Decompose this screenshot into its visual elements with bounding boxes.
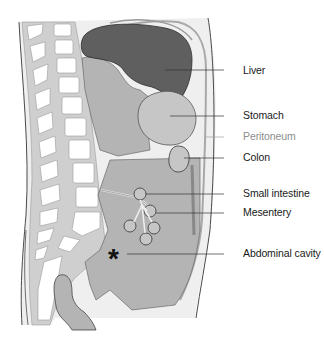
label-liver: Liver <box>243 64 265 76</box>
label-mesentery: Mesentery <box>243 206 291 218</box>
label-small-intestine: Small intestine <box>243 187 310 199</box>
abdomen-sagittal-diagram: * <box>0 0 324 345</box>
transverse-colon <box>169 146 189 172</box>
label-stomach: Stomach <box>243 109 284 121</box>
label-colon: Colon <box>243 151 270 163</box>
abdominal-cavity-marker: * <box>108 243 119 274</box>
descending-colon <box>192 165 194 235</box>
label-peritoneum: Peritoneum <box>243 130 296 142</box>
stomach <box>138 91 196 145</box>
label-abdominal-cavity: Abdominal cavity <box>243 247 321 259</box>
